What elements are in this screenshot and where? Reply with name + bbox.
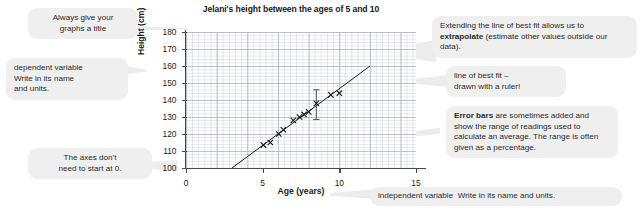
data-point-0 — [261, 142, 266, 147]
callout-title-note-line2: graphs a title — [36, 24, 130, 35]
dependent-note-line-1: dependent variable — [14, 63, 120, 74]
best-fit-note-line-1: line of best fit – — [454, 71, 558, 82]
callout-dependent-variable: dependent variable Write in its name and… — [6, 58, 128, 100]
callout-independent-variable: independent variable Write in its name a… — [370, 187, 622, 206]
error-bar — [313, 90, 319, 120]
data-layer — [186, 32, 416, 168]
chart-container: Jelani's height between the ages of 5 an… — [130, 0, 430, 214]
plot-area: 100110120130140150160170180 051015 — [186, 32, 416, 168]
data-point-10 — [337, 91, 342, 96]
y-tick-label-100: 100 — [163, 163, 177, 173]
dependent-note-line-3: and units. — [14, 84, 120, 95]
y-tick-label-180: 180 — [163, 27, 177, 37]
callout-title-note-line1: Always give your — [36, 13, 130, 24]
x-tick-10: 10 — [339, 168, 340, 173]
y-tick-label-150: 150 — [163, 78, 177, 88]
y-tick-label-160: 160 — [163, 61, 177, 71]
y-tick-label-140: 140 — [163, 95, 177, 105]
chart-title: Jelani's height between the ages of 5 an… — [160, 4, 422, 14]
axes-note-line-2: need to start at 0. — [36, 164, 144, 175]
data-point-3 — [281, 127, 286, 132]
data-point-markers — [261, 91, 342, 148]
callout-axes-start: The axes don't need to start at 0. — [28, 148, 152, 179]
x-tick-label-5: 5 — [260, 178, 265, 188]
x-tick-15: 15 — [416, 168, 417, 173]
x-tick-label-10: 10 — [335, 178, 344, 188]
independent-note-rest: Write in its name and units. — [458, 191, 555, 200]
y-tick-label-110: 110 — [163, 146, 176, 156]
best-fit-line-stroke — [232, 66, 370, 168]
y-tick-label-120: 120 — [163, 129, 177, 139]
error-bars-bold: Error bars — [454, 111, 493, 120]
callout-extrapolate: Extending the line of best fit allows us… — [432, 16, 637, 58]
best-fit-note-line-2: drawn with a ruler! — [454, 82, 558, 93]
extrapolate-pre: Extending the line of best fit allows us… — [440, 21, 584, 30]
x-tick-5: 5 — [263, 168, 264, 173]
y-tick-label-130: 130 — [163, 112, 177, 122]
callout-line-of-best-fit: line of best fit – drawn with a ruler! — [446, 66, 566, 97]
best-fit-line — [232, 66, 370, 168]
x-tick-0: 0 — [186, 168, 187, 173]
extrapolate-bold: extrapolate — [440, 32, 483, 41]
callout-title-note: Always give your graphs a title — [28, 8, 138, 39]
x-tick-label-0: 0 — [184, 178, 189, 188]
data-point-1 — [268, 140, 273, 145]
callout-error-bars: Error bars are sometimes added and show … — [446, 106, 618, 158]
data-point-9 — [328, 92, 333, 97]
axes-note-line-1: The axes don't — [36, 153, 144, 164]
y-tick-label-170: 170 — [163, 44, 177, 54]
dependent-note-line-2: Write in its name — [14, 74, 120, 85]
independent-note-label: independent variable — [378, 191, 453, 200]
